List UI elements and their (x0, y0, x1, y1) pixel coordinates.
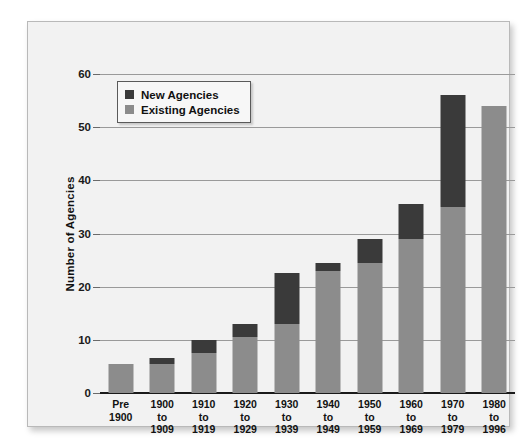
y-tick-mark (93, 180, 100, 181)
x-tick-label-line: to (225, 411, 267, 424)
y-tick-mark (93, 340, 100, 341)
x-tick-label-line: to (142, 411, 184, 424)
x-tick-label-line: to (349, 411, 391, 424)
chart-legend: New Agencies Existing Agencies (117, 81, 251, 123)
chart-panel: Number of Agencies 0102030405060 Pre1900… (27, 21, 510, 427)
x-tick-label-line: 1996 (474, 423, 516, 436)
bar-slot (349, 74, 391, 393)
x-tick-label: 1950to1959 (349, 398, 391, 436)
x-tick-label-line: 1919 (183, 423, 225, 436)
x-tick-label: 1900to1909 (142, 398, 184, 436)
x-tick-label-line: 1949 (308, 423, 350, 436)
bar-slot (474, 74, 516, 393)
stacked-bar[interactable] (316, 263, 341, 393)
legend-label-new-agencies: New Agencies (141, 89, 219, 101)
y-tick-label: 40 (78, 174, 91, 186)
y-tick-mark (93, 287, 100, 288)
legend-label-existing-agencies: Existing Agencies (141, 104, 240, 116)
bar-slot (266, 74, 308, 393)
bar-slot (391, 74, 433, 393)
y-tick-label: 60 (78, 68, 91, 80)
y-tick-label: 50 (78, 121, 91, 133)
y-tick-label: 10 (78, 334, 91, 346)
x-tick-label: 1930to1939 (266, 398, 308, 436)
bar-segment-new-agencies (233, 324, 258, 337)
y-tick-label: 20 (78, 281, 91, 293)
x-axis-tick-labels: Pre19001900to19091910to19191920to1929193… (100, 398, 515, 448)
legend-item-existing-agencies: Existing Agencies (125, 102, 240, 117)
y-tick-label: 30 (78, 228, 91, 240)
stacked-bar[interactable] (482, 106, 507, 393)
x-tick-label-line: to (266, 411, 308, 424)
x-tick-label-line: to (308, 411, 350, 424)
y-tick-mark (93, 393, 100, 394)
x-tick-label-line: 1980 (474, 398, 516, 411)
bar-segment-new-agencies (357, 239, 382, 263)
legend-swatch-new-agencies (125, 90, 134, 99)
stacked-bar[interactable] (357, 239, 382, 393)
x-tick-label-line: 1920 (225, 398, 267, 411)
legend-swatch-existing-agencies (125, 105, 134, 114)
y-tick-mark (93, 234, 100, 235)
bar-segment-new-agencies (316, 263, 341, 271)
bar-segment-existing-agencies (233, 337, 258, 393)
bar-segment-existing-agencies (440, 207, 465, 393)
y-axis-title: Number of Agencies (61, 74, 77, 393)
bar-segment-existing-agencies (357, 263, 382, 393)
bar-segment-existing-agencies (108, 364, 133, 393)
x-tick-label-line: 1960 (391, 398, 433, 411)
x-tick-label-line: 1979 (432, 423, 474, 436)
bar-segment-existing-agencies (316, 271, 341, 393)
bar-segment-new-agencies (399, 204, 424, 239)
x-tick-label: 1910to1919 (183, 398, 225, 436)
legend-item-new-agencies: New Agencies (125, 87, 240, 102)
x-tick-label-line: 1929 (225, 423, 267, 436)
stacked-bar[interactable] (150, 358, 175, 393)
bar-segment-existing-agencies (274, 324, 299, 393)
bar-slot (432, 74, 474, 393)
x-tick-label-line: 1969 (391, 423, 433, 436)
x-tick-label-line: 1900 (100, 411, 142, 424)
x-tick-label-line: to (474, 411, 516, 424)
x-tick-label-line: 1939 (266, 423, 308, 436)
stacked-bar[interactable] (274, 273, 299, 393)
x-tick-label-line: 1970 (432, 398, 474, 411)
y-tick-mark (93, 127, 100, 128)
y-axis-title-text: Number of Agencies (63, 176, 75, 291)
x-tick-label: 1920to1929 (225, 398, 267, 436)
bar-slot (308, 74, 350, 393)
bar-segment-existing-agencies (482, 106, 507, 393)
bar-segment-existing-agencies (191, 353, 216, 393)
x-tick-label: Pre1900 (100, 398, 142, 423)
x-tick-label-line: 1910 (183, 398, 225, 411)
bar-segment-existing-agencies (150, 364, 175, 393)
stacked-bar[interactable] (440, 95, 465, 393)
y-tick-label: 0 (85, 387, 91, 399)
x-tick-label: 1970to1979 (432, 398, 474, 436)
x-tick-label-line: 1909 (142, 423, 184, 436)
bar-segment-new-agencies (191, 340, 216, 353)
x-tick-label-line: to (391, 411, 433, 424)
bar-segment-existing-agencies (399, 239, 424, 393)
y-tick-mark (93, 74, 100, 75)
stacked-bar[interactable] (233, 324, 258, 393)
x-tick-label-line: 1959 (349, 423, 391, 436)
stacked-bar[interactable] (399, 204, 424, 393)
chart-figure: Number of Agencies 0102030405060 Pre1900… (0, 0, 527, 448)
bar-segment-new-agencies (274, 273, 299, 324)
x-tick-label: 1940to1949 (308, 398, 350, 436)
x-tick-label-line: Pre (100, 398, 142, 411)
bar-segment-new-agencies (440, 95, 465, 207)
x-tick-label-line: to (183, 411, 225, 424)
x-tick-label-line: to (432, 411, 474, 424)
stacked-bar[interactable] (108, 364, 133, 393)
x-tick-label-line: 1950 (349, 398, 391, 411)
x-tick-label-line: 1900 (142, 398, 184, 411)
x-tick-label: 1980to1996 (474, 398, 516, 436)
x-tick-label-line: 1930 (266, 398, 308, 411)
x-tick-label: 1960to1969 (391, 398, 433, 436)
stacked-bar[interactable] (191, 340, 216, 393)
x-tick-label-line: 1940 (308, 398, 350, 411)
